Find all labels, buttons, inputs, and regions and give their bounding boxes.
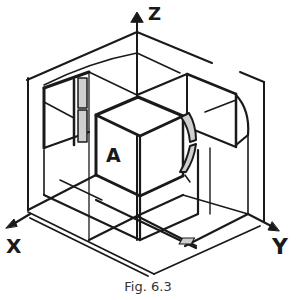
figure-caption: Fig. 6.3 xyxy=(0,279,296,294)
z-axis-label: Z xyxy=(148,5,161,23)
isometric-grid-drawing xyxy=(0,0,296,300)
isometric-diagram: Z X Y A Fig. 6.3 xyxy=(0,0,296,300)
y-axis-label: Y xyxy=(272,236,288,258)
left-wall-shading xyxy=(78,78,87,142)
x-axis xyxy=(6,214,30,228)
floor-edge xyxy=(28,212,260,276)
cube-a-label: A xyxy=(106,144,121,166)
x-axis-label: X xyxy=(6,236,21,256)
